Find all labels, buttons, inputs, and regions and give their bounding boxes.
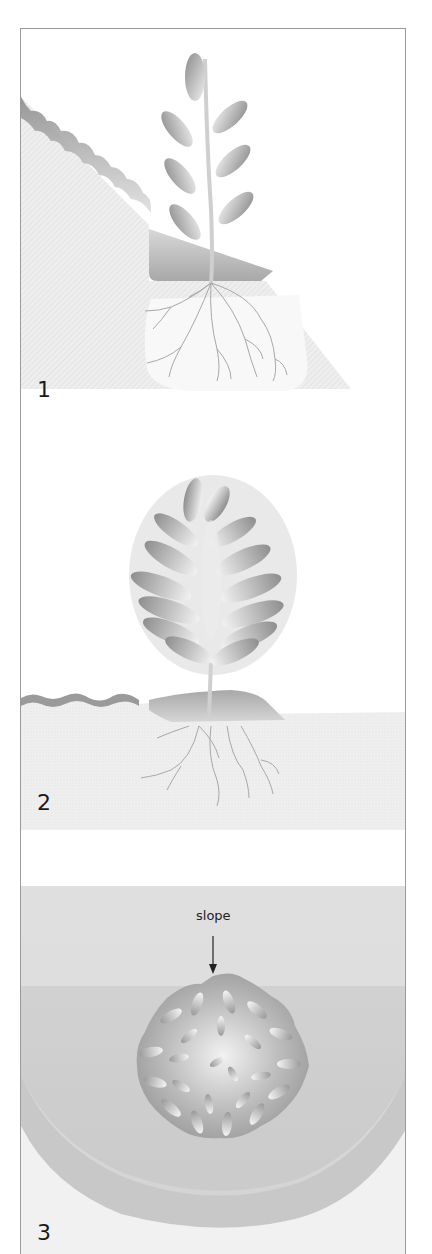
planting-mound bbox=[149, 690, 285, 722]
slope-planting-illustration bbox=[21, 29, 405, 417]
step-label-1: 1 bbox=[37, 379, 51, 401]
established-shrub-illustration bbox=[21, 470, 405, 850]
slope-callout-label: slope bbox=[196, 908, 231, 923]
panel-step-3: slope 3 bbox=[21, 886, 405, 1254]
shrub-canopy bbox=[128, 475, 297, 675]
panel-step-2: 2 bbox=[21, 470, 405, 850]
panel-step-1: 1 bbox=[21, 29, 405, 417]
step-label-3: 3 bbox=[37, 1222, 51, 1244]
topview-bowl-illustration bbox=[21, 886, 405, 1254]
step-label-2: 2 bbox=[37, 792, 51, 814]
